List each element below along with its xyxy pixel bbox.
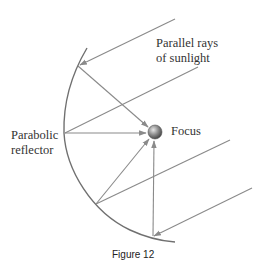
parabolic-reflector-curve (64, 48, 175, 242)
parabolic-reflector-label-line1: Parabolic (11, 128, 58, 143)
parallel-rays-label: Parallel rays of sunlight (156, 36, 218, 66)
incoming-ray-3 (96, 140, 230, 204)
focus-label: Focus (171, 124, 201, 139)
incoming-ray-4 (154, 188, 252, 236)
reflected-ray-4 (153, 141, 154, 236)
figure-caption: Figure 12 (112, 249, 154, 260)
reflected-rays (65, 66, 154, 236)
parallel-rays-label-line1: Parallel rays (156, 36, 218, 51)
parabolic-reflector-label-line2: reflector (11, 143, 58, 158)
focus-point-icon (148, 125, 162, 139)
parabolic-reflector-label: Parabolic reflector (11, 128, 58, 158)
parallel-rays-label-line2: of sunlight (156, 51, 218, 66)
parabolic-reflector-diagram: Parallel rays of sunlight Parabolic refl… (0, 0, 265, 270)
reflected-ray-3 (96, 139, 149, 204)
